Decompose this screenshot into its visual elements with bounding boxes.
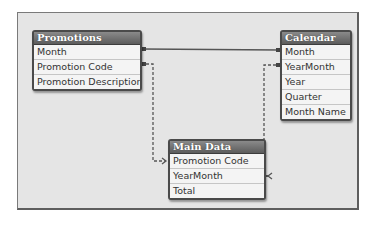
field-month[interactable]: Month: [282, 45, 350, 60]
field-total[interactable]: Total: [170, 184, 264, 198]
field-yearmonth[interactable]: YearMonth: [282, 60, 350, 75]
field-quarter[interactable]: Quarter: [282, 90, 350, 105]
table-promotions[interactable]: Promotions Month Promotion Code Promotio…: [32, 30, 142, 91]
field-promotion-description[interactable]: Promotion Description: [34, 75, 140, 89]
field-year[interactable]: Year: [282, 75, 350, 90]
table-main-data[interactable]: Main Data Promotion Code YearMonth Total: [168, 139, 266, 200]
table-title: Promotions: [34, 32, 140, 45]
field-month-name[interactable]: Month Name: [282, 105, 350, 119]
field-promotion-code[interactable]: Promotion Code: [170, 154, 264, 169]
table-calendar[interactable]: Calendar Month YearMonth Year Quarter Mo…: [280, 30, 352, 121]
field-yearmonth[interactable]: YearMonth: [170, 169, 264, 184]
table-title: Calendar: [282, 32, 350, 45]
table-title: Main Data: [170, 141, 264, 154]
field-promotion-code[interactable]: Promotion Code: [34, 60, 140, 75]
field-month[interactable]: Month: [34, 45, 140, 60]
